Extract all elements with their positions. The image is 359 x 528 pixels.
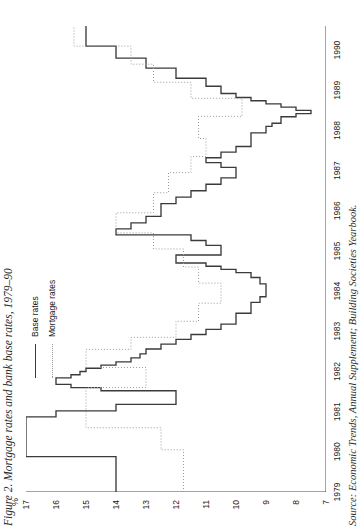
x-axis-tick-label: 1989 (332, 75, 342, 105)
series-line-mortgage-rates (74, 26, 242, 492)
y-axis-tick-label: 14 (111, 500, 121, 516)
y-axis-tick-label: 16 (51, 500, 61, 516)
figure-source-caption: Source: Economic Trends, Annual Suppleme… (347, 205, 358, 526)
x-axis-tick-label: 1990 (332, 35, 342, 65)
y-axis-tick-label: 17 (21, 500, 31, 516)
x-axis-tick-label: 1988 (332, 115, 342, 145)
y-axis-tick-label: 10 (231, 500, 241, 516)
x-axis-tick-label: 1980 (332, 437, 342, 467)
x-axis-tick-label: 1985 (332, 236, 342, 266)
x-axis-tick-label: 1987 (332, 156, 342, 186)
legend-swatch-dotted-line-icon (52, 344, 53, 378)
legend-item-mortgage-rates: Mortgage rates (47, 280, 57, 378)
x-axis-tick-label: 1981 (332, 397, 342, 427)
y-axis-tick-label: 9 (261, 500, 271, 516)
y-axis-tick-label: 8 (291, 500, 301, 516)
x-axis-tick-label: 1983 (332, 316, 342, 346)
y-axis-tick-label: 7 (321, 500, 331, 516)
y-axis-tick-label: 13 (141, 500, 151, 516)
series-group (26, 26, 311, 492)
chart-plot-area (26, 26, 326, 492)
rotated-figure-wrapper: Figure 2. Mortgage rates and bank base r… (0, 0, 359, 528)
chart-legend: Base rates Mortgage rates (30, 280, 64, 378)
legend-swatch-solid-line-icon (35, 344, 36, 378)
chart-svg (26, 26, 326, 492)
x-axis-tick-label: 1986 (332, 196, 342, 226)
y-axis-unit-label: % (10, 498, 20, 506)
figure-title: Figure 2. Mortgage rates and bank base r… (2, 268, 14, 526)
y-axis-tick-label: 15 (81, 500, 91, 516)
x-axis-tick-label: 1984 (332, 276, 342, 306)
x-axis-tick-label: 1982 (332, 356, 342, 386)
legend-item-base-rates: Base rates (30, 280, 40, 378)
legend-label-mortgage-rates: Mortgage rates (47, 280, 57, 337)
y-axis-tick-label: 11 (201, 500, 211, 516)
x-axis-tick-label: 1979 (332, 477, 342, 507)
y-axis-tick-label: 12 (171, 500, 181, 516)
series-line-base-rates (26, 26, 311, 492)
legend-label-base-rates: Base rates (30, 296, 40, 337)
